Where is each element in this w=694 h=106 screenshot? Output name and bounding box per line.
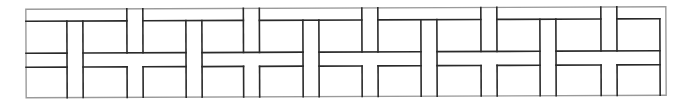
diagram-canvas: Panel joinery pattern (T and cross strip… bbox=[0, 0, 694, 106]
panel-pattern-drawing bbox=[0, 0, 694, 106]
panel-lines bbox=[26, 7, 660, 98]
